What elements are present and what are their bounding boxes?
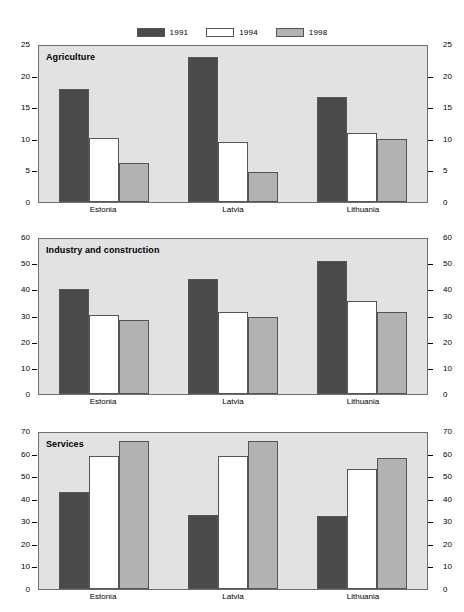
bar-group-latvia <box>168 433 297 589</box>
y-axis-left-tick-label: 40 <box>0 496 30 504</box>
chart-legend: 199119941998 <box>0 24 464 40</box>
bar-lithuania-1991 <box>317 261 347 394</box>
category-label-latvia: Latvia <box>168 397 298 406</box>
y-axis-left-tickmark <box>32 567 37 568</box>
y-axis-right-tickmark <box>428 317 433 318</box>
y-axis-right-tickmark <box>428 108 433 109</box>
bar-lithuania-1991 <box>317 516 347 589</box>
legend-swatch-1994 <box>206 28 234 37</box>
y-axis-left-tick-label: 40 <box>0 286 30 294</box>
y-axis-left-tick-label: 70 <box>0 428 30 436</box>
legend-item-1994: 1994 <box>206 28 258 37</box>
bar-estonia-1994 <box>89 456 119 589</box>
y-axis-left-tick-label: 20 <box>0 339 30 347</box>
bar-group-lithuania <box>298 239 427 394</box>
y-axis-left-tickmark <box>32 108 37 109</box>
category-label-lithuania: Lithuania <box>298 205 428 214</box>
y-axis-left-tick-label: 60 <box>0 234 30 242</box>
bar-latvia-1991 <box>188 279 218 394</box>
bar-group-latvia <box>168 46 297 202</box>
bar-estonia-1991 <box>59 492 89 589</box>
y-axis-right-tick-label: 60 <box>434 234 464 242</box>
category-label-estonia: Estonia <box>38 592 168 601</box>
bar-container <box>39 239 427 394</box>
category-label-estonia: Estonia <box>38 397 168 406</box>
bar-latvia-1994 <box>218 142 248 202</box>
y-axis-left-tickmark <box>32 477 37 478</box>
y-axis-left-tick-label: 10 <box>0 365 30 373</box>
y-axis-right-tickmark <box>428 522 433 523</box>
y-axis-left-tickmark <box>32 317 37 318</box>
y-axis-right-tick-label: 0 <box>434 199 464 207</box>
y-axis-right-tick-label: 20 <box>434 339 464 347</box>
bar-lithuania-1998 <box>377 139 407 202</box>
y-axis-left-tick-label: 5 <box>0 167 30 175</box>
y-axis-right-tick-label: 20 <box>434 73 464 81</box>
y-axis-left-tickmark <box>32 455 37 456</box>
panel-title-2: Services <box>46 439 84 449</box>
y-axis-right-tick-label: 50 <box>434 260 464 268</box>
y-axis-right-tick-label: 10 <box>434 563 464 571</box>
bar-estonia-1998 <box>119 441 149 589</box>
y-axis-left-tickmark <box>32 343 37 344</box>
y-axis-left-tickmark <box>32 171 37 172</box>
bar-estonia-1991 <box>59 89 89 202</box>
legend-item-1991: 1991 <box>137 28 189 37</box>
y-axis-left-tick-label: 50 <box>0 473 30 481</box>
y-axis-left-tick-label: 15 <box>0 104 30 112</box>
bar-latvia-1994 <box>218 312 248 394</box>
y-axis-right-tickmark <box>428 264 433 265</box>
bar-container <box>39 433 427 589</box>
y-axis-left-tick-label: 10 <box>0 136 30 144</box>
bar-estonia-1991 <box>59 289 89 394</box>
y-axis-left-tick-label: 20 <box>0 73 30 81</box>
bar-lithuania-1998 <box>377 312 407 394</box>
legend-label-1994: 1994 <box>239 28 258 37</box>
y-axis-right-tick-label: 30 <box>434 518 464 526</box>
bar-lithuania-1994 <box>347 469 377 589</box>
y-axis-right-tick-label: 40 <box>434 286 464 294</box>
y-axis-right-tick-label: 0 <box>434 391 464 399</box>
y-axis-right-tick-label: 60 <box>434 451 464 459</box>
y-axis-right-tickmark <box>428 171 433 172</box>
bar-latvia-1998 <box>248 441 278 589</box>
y-axis-left-tick-label: 30 <box>0 518 30 526</box>
y-axis-right-tick-label: 30 <box>434 313 464 321</box>
panel-title-1: Industry and construction <box>46 245 160 255</box>
y-axis-right-tickmark <box>428 500 433 501</box>
y-axis-right-tickmark <box>428 290 433 291</box>
bar-latvia-1998 <box>248 317 278 394</box>
y-axis-left-tick-label: 60 <box>0 451 30 459</box>
bar-latvia-1994 <box>218 456 248 589</box>
y-axis-left-tickmark <box>32 369 37 370</box>
y-axis-left-tickmark <box>32 77 37 78</box>
panel-title-0: Agriculture <box>46 52 95 62</box>
legend-swatch-1991 <box>137 28 165 37</box>
plot-area-0 <box>38 45 428 203</box>
y-axis-right-tick-label: 10 <box>434 136 464 144</box>
y-axis-right-tick-label: 20 <box>434 541 464 549</box>
y-axis-right-tickmark <box>428 567 433 568</box>
y-axis-right-tickmark <box>428 140 433 141</box>
legend-label-1998: 1998 <box>309 28 328 37</box>
y-axis-right-tick-label: 70 <box>434 428 464 436</box>
bar-group-lithuania <box>298 433 427 589</box>
category-label-lithuania: Lithuania <box>298 397 428 406</box>
plot-area-1 <box>38 238 428 395</box>
y-axis-left-tick-label: 30 <box>0 313 30 321</box>
legend-swatch-1998 <box>276 28 304 37</box>
category-label-lithuania: Lithuania <box>298 592 428 601</box>
y-axis-left-tick-label: 50 <box>0 260 30 268</box>
y-axis-right-tickmark <box>428 545 433 546</box>
legend-label-1991: 1991 <box>170 28 189 37</box>
y-axis-right-tick-label: 25 <box>434 41 464 49</box>
y-axis-right-tick-label: 15 <box>434 104 464 112</box>
bar-latvia-1998 <box>248 172 278 202</box>
y-axis-left-tickmark <box>32 140 37 141</box>
category-label-estonia: Estonia <box>38 205 168 214</box>
y-axis-right-tick-label: 50 <box>434 473 464 481</box>
y-axis-right-tick-label: 0 <box>434 586 464 594</box>
y-axis-right-tick-label: 5 <box>434 167 464 175</box>
bar-lithuania-1994 <box>347 301 377 394</box>
bar-estonia-1994 <box>89 138 119 202</box>
